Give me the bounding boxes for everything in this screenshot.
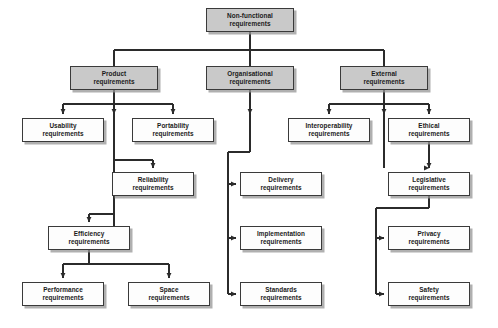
node-label-line2: requirements [148, 294, 189, 302]
node-label-line1: Portability [157, 122, 189, 130]
diagram-canvas: Non-functional requirements Product requ… [0, 0, 498, 328]
node-label-line2: requirements [93, 78, 134, 86]
node-delivery[interactable]: Delivery requirements [240, 172, 322, 196]
node-ethical[interactable]: Ethical requirements [388, 118, 470, 142]
node-label-line2: requirements [408, 130, 449, 138]
node-label-line2: requirements [42, 130, 83, 138]
node-label-line2: requirements [363, 78, 404, 86]
node-label-line1: Implementation [257, 230, 305, 238]
node-label-line1: Ethical [418, 122, 439, 130]
node-label-line1: Space [159, 286, 178, 294]
node-label-line1: Non-functional [227, 12, 273, 20]
node-legislative[interactable]: Legislative requirements [388, 172, 470, 196]
node-label-line1: Reliability [138, 176, 169, 184]
node-label-line1: Safety [419, 286, 438, 294]
node-label-line2: requirements [42, 294, 83, 302]
node-nonfunctional[interactable]: Non-functional requirements [206, 8, 294, 32]
node-label-line2: requirements [132, 184, 173, 192]
node-label-line1: Privacy [417, 230, 440, 238]
node-label-line1: Standards [265, 286, 297, 294]
node-label-line2: requirements [308, 130, 349, 138]
node-organisational[interactable]: Organisational requirements [206, 66, 294, 90]
node-interoperability[interactable]: Interoperability requirements [288, 118, 370, 142]
node-label-line2: requirements [229, 20, 270, 28]
node-label-line2: requirements [408, 294, 449, 302]
node-external[interactable]: External requirements [340, 66, 428, 90]
node-product[interactable]: Product requirements [70, 66, 158, 90]
node-label-line2: requirements [260, 184, 301, 192]
node-label-line1: Legislative [412, 176, 446, 184]
node-usability[interactable]: Usability requirements [22, 118, 104, 142]
node-label-line2: requirements [229, 78, 270, 86]
node-reliability[interactable]: Reliability requirements [112, 172, 194, 196]
node-safety[interactable]: Safety requirements [388, 282, 470, 306]
node-label-line1: Organisational [227, 70, 272, 78]
node-label-line2: requirements [408, 184, 449, 192]
node-label-line1: Product [102, 70, 127, 78]
node-label-line2: requirements [260, 294, 301, 302]
node-label-line2: requirements [260, 238, 301, 246]
node-label-line1: External [371, 70, 397, 78]
node-portability[interactable]: Portability requirements [132, 118, 214, 142]
node-label-line2: requirements [152, 130, 193, 138]
node-label-line1: Performance [43, 286, 83, 294]
node-efficiency[interactable]: Efficiency requirements [48, 226, 130, 250]
node-performance[interactable]: Performance requirements [22, 282, 104, 306]
node-label-line2: requirements [408, 238, 449, 246]
node-label-line1: Usability [49, 122, 76, 130]
node-privacy[interactable]: Privacy requirements [388, 226, 470, 250]
node-standards[interactable]: Standards requirements [240, 282, 322, 306]
connector-layer [0, 0, 498, 328]
node-label-line1: Delivery [268, 176, 293, 184]
node-label-line2: requirements [68, 238, 109, 246]
node-label-line1: Interoperability [306, 122, 353, 130]
node-space[interactable]: Space requirements [128, 282, 210, 306]
node-label-line1: Efficiency [74, 230, 105, 238]
node-implementation[interactable]: Implementation requirements [240, 226, 322, 250]
